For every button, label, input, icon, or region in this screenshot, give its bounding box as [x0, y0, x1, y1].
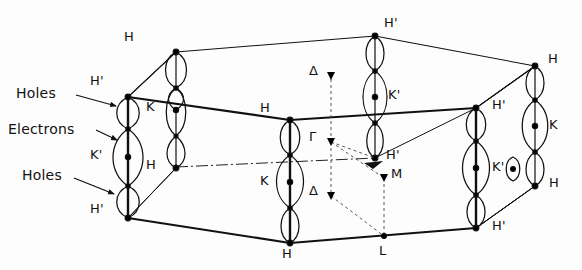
delta-top-dot: [327, 72, 335, 80]
vertex-dot: [125, 94, 131, 100]
vertex-label-hprime-frontleft-bottom: H': [90, 202, 104, 215]
arrow-holes-bottom: [74, 178, 114, 194]
symmetry-guides: [331, 36, 384, 236]
pocket-center-dot: [287, 179, 292, 184]
vertex-dot: [372, 155, 378, 161]
mid-plane-guideline: [95, 147, 375, 167]
vertex-dot: [173, 49, 179, 55]
arrow-electrons: [96, 130, 117, 140]
edge-bottom-frontleft-center: [128, 218, 290, 243]
symmetry-label-delta-top: Δ: [309, 64, 318, 77]
vertex-dot: [473, 225, 479, 231]
brillouin-zone-figure: Holes Electrons Holes H H' H H' K K' H H…: [0, 0, 582, 270]
vertex-dot: [126, 184, 130, 188]
vertex-label-h-innerleft: H: [146, 158, 156, 171]
vertex-dot: [373, 121, 377, 125]
bottom-face-edges: [128, 218, 476, 243]
vertex-dot: [474, 139, 478, 143]
guide-delta-to-l: [331, 196, 384, 236]
annotation-holes-bottom: Holes: [22, 168, 62, 182]
vertex-dot: [287, 240, 293, 246]
pocket-center-dot: [473, 165, 478, 170]
vertex-label-h-frontbottom: H: [282, 247, 292, 260]
vertex-dot: [173, 165, 179, 171]
vertex-dot: [473, 105, 479, 111]
vertex-label-h-farright-bottom: H: [549, 176, 559, 189]
vertex-dot: [126, 127, 130, 131]
gamma-dot: [327, 138, 335, 146]
pocket-group-inner-right-small: [506, 157, 520, 181]
m-dot: [380, 174, 388, 182]
annotation-holes-top: Holes: [16, 86, 56, 100]
vertex-dot: [533, 98, 537, 102]
middle-face-edges: [128, 97, 476, 120]
hprime-wedge-icon: [364, 161, 383, 169]
symmetry-label-m: M: [391, 167, 402, 180]
vertex-label-h-backright: H: [548, 52, 558, 65]
guide-innerleft-to-hprime: [176, 158, 375, 167]
l-dot: [381, 233, 387, 239]
pocket-center-dot: [173, 107, 178, 112]
vertex-label-k-innerleft: K: [146, 100, 155, 113]
pocket-center-dot: [125, 154, 130, 159]
vertex-dot: [532, 63, 538, 69]
vertex-label-kprime-backcenter: K': [388, 88, 401, 101]
delta-bottom-dot: [327, 192, 335, 200]
edge-top-backcenter-backright: [375, 36, 535, 66]
vertex-label-k-farright: K: [549, 118, 558, 131]
vertex-label-kprime-frontleft: K': [90, 148, 103, 161]
vertex-dot: [511, 167, 516, 172]
vertex-dot: [532, 183, 538, 189]
annotation-electrons: Electrons: [8, 122, 75, 136]
pocket-center-dot: [532, 123, 537, 128]
symmetry-label-delta-bottom: Δ: [309, 184, 318, 197]
edge-top-backleft-backcenter: [176, 36, 375, 52]
vertex-label-hprime-frontright: H': [492, 98, 506, 111]
annotation-arrows: [74, 95, 117, 194]
vertex-dot: [373, 69, 377, 73]
vertex-dot: [125, 215, 131, 221]
bottom-face-receding-edges: [128, 120, 535, 228]
arrow-holes-top: [76, 95, 116, 106]
vertex-label-hprime-frontleft-top: H': [90, 74, 104, 87]
symmetry-label-gamma: Γ: [309, 130, 316, 143]
vertex-label-h-backleft: H: [124, 30, 134, 43]
vertex-label-hprime-innerright: H': [386, 148, 400, 161]
vertex-label-hprime-frontright-bottom: H': [492, 219, 506, 232]
symmetry-label-l: L: [379, 244, 386, 257]
right-receding-lines: [455, 66, 535, 228]
pocket-center-dot: [372, 94, 377, 99]
vertex-dot: [174, 134, 178, 138]
vertex-label-kprime-frontright: K': [492, 160, 505, 173]
vertex-dot: [474, 193, 478, 197]
vertex-dot: [533, 150, 537, 154]
vertex-label-h-midcenter: H: [260, 101, 270, 114]
vertex-dot: [288, 153, 292, 157]
vertex-dot: [287, 117, 293, 123]
vertex-label-hprime-backcenter: H': [384, 16, 398, 29]
vertex-label-k-frontcenter: K: [260, 174, 269, 187]
vertex-dot: [288, 206, 292, 210]
connector-innerleft-down: [128, 168, 176, 218]
